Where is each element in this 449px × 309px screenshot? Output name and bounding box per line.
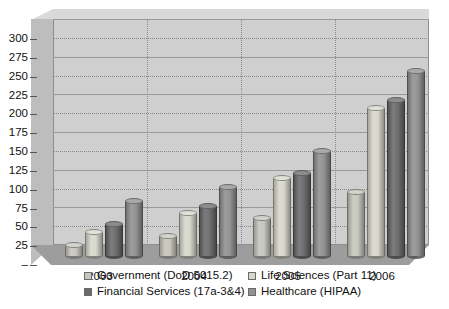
y-axis-tick-mark-300 (30, 39, 37, 40)
y-axis-tick-mark-175 (30, 133, 37, 134)
y-axis-tick-mark-100 (30, 190, 37, 191)
bar-body (125, 201, 143, 256)
bar-cap-outline (219, 184, 237, 190)
bar-2005-series-3 (313, 151, 331, 256)
gridline-vertical-3 (335, 19, 336, 245)
bar-body (367, 108, 385, 256)
y-axis-tick-label-250: 250 (0, 71, 28, 81)
bar-cap-outline (85, 229, 103, 235)
y-axis-tick-label-50: 50 (0, 221, 28, 231)
gridline-vertical-1 (147, 19, 148, 245)
bar-body (219, 187, 237, 256)
bar-2003-series-1 (85, 232, 103, 256)
y-axis-tick-mark-50 (30, 227, 37, 228)
y-axis-tick-label-300: 300 (0, 33, 28, 43)
legend-label-financial-services: Financial Services (17a-3&4) (97, 285, 245, 298)
legend-label-healthcare: Healthcare (HIPAA) (261, 285, 361, 298)
bar-cap-outline (179, 210, 197, 216)
y-axis-tick-label-175: 175 (0, 127, 28, 137)
bar-2005-series-2 (293, 173, 311, 256)
legend-item-financial-services[interactable]: Financial Services (17a-3&4) (84, 285, 245, 298)
bar-cap-outline (199, 203, 217, 209)
y-axis-tick-label-275: 275 (0, 52, 28, 62)
legend-swatch-healthcare (248, 288, 256, 296)
bar-body (253, 218, 271, 256)
bar-body (387, 100, 405, 256)
bar-2003-series-2 (105, 224, 123, 256)
bar-body (159, 236, 177, 256)
bar-chart: 300275250225200175150125100755025– 20032… (0, 0, 449, 309)
y-axis-tick-mark-225 (30, 96, 37, 97)
bar-2006-series-1 (367, 108, 385, 256)
y-axis-tick-label-25: 25 (0, 240, 28, 250)
y-axis-tick-label-225: 225 (0, 90, 28, 100)
gridline-vertical-2 (241, 19, 242, 245)
bar-2004-series-0 (159, 236, 177, 256)
legend: Government (DoD 5015.2) Financial Servic… (84, 269, 384, 301)
bar-body (347, 192, 365, 256)
bar-2003-series-0 (65, 245, 83, 256)
bar-cap-outline (367, 105, 385, 111)
y-axis-tick-label-150: 150 (0, 146, 28, 156)
bar-cap-outline (347, 189, 365, 195)
legend-label-life-sciences: Life Sciences (Part 11) (261, 269, 376, 282)
legend-label-government: Government (DoD 5015.2) (97, 269, 233, 282)
legend-item-government[interactable]: Government (DoD 5015.2) (84, 269, 233, 282)
y-axis-tick-mark-75 (30, 209, 37, 210)
bar-body (407, 71, 425, 256)
bar-2003-series-3 (125, 201, 143, 256)
y-axis-tick-mark-25 (30, 246, 37, 247)
bar-cap-outline (159, 233, 177, 239)
bar-body (85, 232, 103, 256)
legend-item-life-sciences[interactable]: Life Sciences (Part 11) (248, 269, 376, 282)
y-axis-tick-label-75: 75 (0, 203, 28, 213)
bar-2006-series-2 (387, 100, 405, 256)
y-axis-tick-mark-125 (30, 171, 37, 172)
bar-2004-series-2 (199, 206, 217, 256)
bar-2006-series-0 (347, 192, 365, 256)
bar-2004-series-1 (179, 213, 197, 256)
y-axis-tick-mark-zero (30, 265, 37, 266)
y-axis-tick-mark-250 (30, 77, 37, 78)
bar-cap-outline (313, 148, 331, 154)
bar-2006-series-3 (407, 71, 425, 256)
bar-body (179, 213, 197, 256)
legend-item-healthcare[interactable]: Healthcare (HIPAA) (248, 285, 361, 298)
bar-cap-outline (65, 242, 83, 248)
bar-body (313, 151, 331, 256)
legend-swatch-government (84, 272, 92, 280)
y-axis-tick-mark-150 (30, 152, 37, 153)
bar-cap-outline (125, 198, 143, 204)
y-axis-tick-label-125: 125 (0, 165, 28, 175)
y-axis-tick-mark-200 (30, 114, 37, 115)
bar-cap-outline (387, 97, 405, 103)
y-axis-tick-mark-275 (30, 58, 37, 59)
bar-2004-series-3 (219, 187, 237, 256)
bar-body (273, 178, 291, 256)
bar-body (199, 206, 217, 256)
bar-body (293, 173, 311, 256)
legend-swatch-life-sciences (248, 272, 256, 280)
bar-2005-series-0 (253, 218, 271, 256)
bar-body (105, 224, 123, 256)
bar-2005-series-1 (273, 178, 291, 256)
y-axis-tick-label-100: 100 (0, 184, 28, 194)
y-axis-tick-label-zero: – (0, 259, 28, 269)
y-axis-tick-label-200: 200 (0, 108, 28, 118)
legend-swatch-financial-services (84, 288, 92, 296)
